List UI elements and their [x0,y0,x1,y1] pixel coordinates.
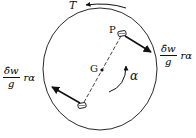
disk-outline [43,8,157,130]
center-g-label: G [90,64,98,74]
inertia-force-arrow-left [52,87,80,103]
force-right-numerator: δ̂w [160,44,177,56]
point-p-label: P [109,25,116,35]
force-left-tail: rα [24,72,36,83]
angular-accel-arrow [109,66,126,92]
inertia-force-label-right: δ̂w g rα [160,44,192,67]
center-point-g [100,68,103,71]
force-right-denominator: g [165,56,171,67]
alpha-label: α [130,70,138,82]
force-left-denominator: g [8,78,14,89]
torque-arrow [86,4,126,8]
mass-element-p [118,30,127,36]
force-right-tail: rα [181,50,193,61]
inertia-force-arrow-right [125,36,151,52]
force-left-numerator: δ̂w [3,66,20,78]
inertia-force-label-left: δ̂w g rα [3,66,35,89]
torque-label: T [69,0,76,11]
